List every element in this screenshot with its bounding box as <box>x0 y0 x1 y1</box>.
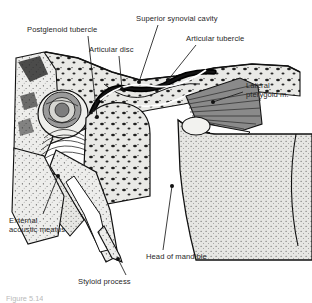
label-external-acoustic-meatus: External acoustic meatus <box>9 216 65 235</box>
figure-caption: Figure 5.14 <box>6 294 43 303</box>
label-styloid-process: Styloid process <box>78 277 131 286</box>
head-of-mandible <box>178 117 312 260</box>
label-articular-disc: Articular disc <box>89 45 134 54</box>
dot-external-acoustic-meatus <box>56 174 60 178</box>
label-lateral-pterygoid-muscle: Lateral pterygoid m. <box>246 81 289 100</box>
dot-articular-tubercle <box>166 78 170 82</box>
label-head-of-mandible: Head of mandible <box>146 252 207 261</box>
label-articular-tubercle: Articular tubercle <box>186 34 244 43</box>
dot-styloid-process <box>116 257 120 261</box>
dot-lateral-pterygoid-muscle <box>211 100 215 104</box>
dot-postglenoid-tubercle <box>95 115 99 119</box>
dot-articular-disc <box>120 87 124 91</box>
label-postglenoid-tubercle: Postglenoid tubercle <box>27 25 97 34</box>
label-superior-synovial-cavity: Superior synovial cavity <box>136 14 218 23</box>
dot-head-of-mandible <box>170 184 174 188</box>
dot-superior-synovial-cavity <box>137 80 141 84</box>
